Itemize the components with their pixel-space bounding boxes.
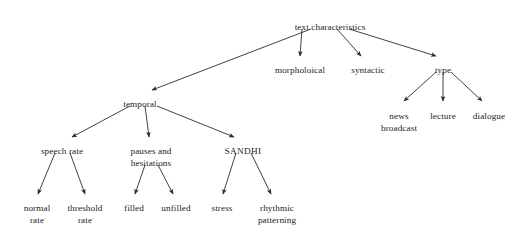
node-label-line2: rate — [24, 215, 51, 227]
node-speech-rate: speech rate — [41, 146, 83, 158]
node-morpholoical: morpholoical — [275, 65, 325, 77]
node-label-line2: patterning — [258, 215, 296, 227]
node-label-line2: broadcast — [381, 123, 417, 135]
node-label: threshold — [67, 203, 102, 213]
node-news-broadcast: newsbroadcast — [381, 111, 417, 134]
edge-pauses-to-unfilled — [158, 165, 173, 194]
node-label: rhythmic — [260, 203, 294, 213]
node-stress: stress — [211, 203, 232, 215]
node-label-line2: rate — [67, 215, 102, 227]
edge-root-to-temporal — [152, 29, 311, 90]
edge-type-to-dialogue — [451, 72, 482, 101]
node-label: filled — [124, 203, 144, 213]
node-label: dialogue — [473, 111, 505, 121]
node-rhythmic: rhythmicpatterning — [258, 203, 296, 226]
node-filled: filled — [124, 203, 144, 215]
node-label-line2: hesitations — [130, 158, 171, 170]
edge-temporal-to-speech-rate — [72, 106, 130, 137]
edge-temporal-to-sandhi — [157, 106, 234, 137]
edge-sandhi-to-stress — [223, 153, 236, 194]
node-syntactic: syntactic — [351, 65, 385, 77]
edge-sandhi-to-rhythmic — [251, 153, 271, 194]
node-normal-rate: normalrate — [24, 203, 51, 226]
node-label: temporal — [123, 99, 156, 109]
node-type: type — [435, 65, 451, 77]
node-label: syntactic — [351, 65, 385, 75]
edge-type-to-news-broadcast — [404, 72, 436, 101]
node-dialogue: dialogue — [473, 111, 505, 123]
node-threshold-rate: thresholdrate — [67, 203, 102, 226]
node-sandhi: SANDHI — [224, 146, 261, 158]
node-lecture: lecture — [430, 111, 456, 123]
node-label: stress — [211, 203, 232, 213]
node-label: news — [389, 111, 408, 121]
node-label: normal — [24, 203, 51, 213]
edge-speech-rate-to-threshold-rate — [70, 153, 85, 194]
node-label: morpholoical — [275, 65, 325, 75]
tree-diagram: text characteristicstemporalmorpholoical… — [0, 0, 527, 238]
edge-speech-rate-to-normal-rate — [38, 153, 55, 194]
node-temporal: temporal — [123, 99, 156, 111]
node-label: pauses and — [130, 146, 171, 156]
node-root: text characteristics — [295, 22, 366, 34]
node-unfilled: unfilled — [161, 203, 190, 215]
node-label: unfilled — [161, 203, 190, 213]
edge-temporal-to-pauses — [145, 106, 149, 137]
edge-pauses-to-filled — [135, 165, 145, 194]
node-pauses: pauses andhesitations — [130, 146, 171, 169]
node-label: type — [435, 65, 451, 75]
node-label: lecture — [430, 111, 456, 121]
node-label: speech rate — [41, 146, 83, 156]
node-label: text characteristics — [295, 22, 366, 32]
node-label: SANDHI — [224, 146, 261, 156]
